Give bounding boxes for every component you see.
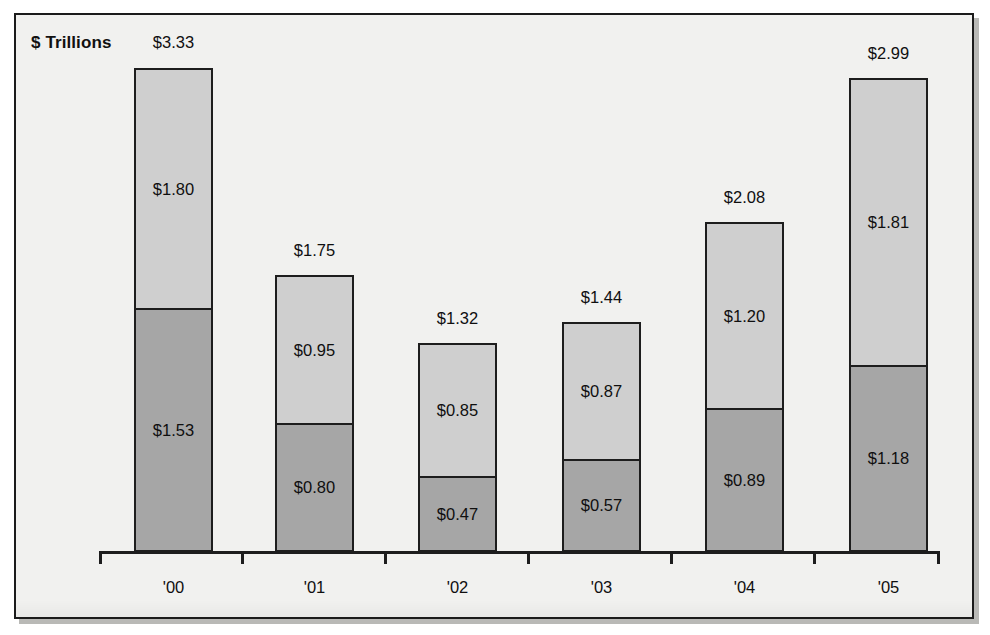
bar-stack[interactable]: $0.95$0.80 <box>275 275 354 552</box>
bar-stack[interactable]: $1.81$1.18 <box>849 78 928 552</box>
x-axis-category-label: '05 <box>849 578 928 597</box>
bar-segment-upper[interactable]: $0.85 <box>418 343 497 478</box>
bar-segment-upper-label: $1.80 <box>153 180 194 199</box>
bar-segment-lower[interactable]: $0.80 <box>275 423 354 552</box>
x-axis-category-label: '03 <box>562 578 641 597</box>
bar-total-label: $2.99 <box>849 44 928 63</box>
bar-segment-lower-label: $1.53 <box>153 421 194 440</box>
bar-total-label: $2.08 <box>705 188 784 207</box>
bar-segment-upper-label: $1.20 <box>724 307 765 326</box>
bar-total-label: $1.44 <box>562 288 641 307</box>
bar-stack[interactable]: $0.85$0.47 <box>418 343 497 552</box>
bar-segment-lower[interactable]: $0.57 <box>562 459 641 552</box>
x-axis-tick <box>937 551 940 564</box>
bar-segment-upper[interactable]: $0.95 <box>275 275 354 425</box>
bar-stack[interactable]: $1.80$1.53 <box>134 68 213 552</box>
x-axis-category-label: '02 <box>418 578 497 597</box>
bar-stack[interactable]: $1.20$0.89 <box>705 222 784 552</box>
plot-area: $ Trillions $1.80$1.53$3.33$0.95$0.80$1.… <box>0 0 990 635</box>
x-axis-tick <box>99 551 102 564</box>
stacked-bar-chart-figure: $ Trillions $1.80$1.53$3.33$0.95$0.80$1.… <box>0 0 990 635</box>
bar-segment-upper-label: $1.81 <box>868 213 909 232</box>
bar-segment-lower[interactable]: $1.18 <box>849 365 928 552</box>
bar-segment-upper[interactable]: $0.87 <box>562 322 641 461</box>
bar-segment-lower[interactable]: $1.53 <box>134 308 213 552</box>
x-axis-category-label: '01 <box>275 578 354 597</box>
x-axis-tick <box>813 551 816 564</box>
x-axis-category-label: '04 <box>705 578 784 597</box>
bar-segment-upper-label: $0.87 <box>581 382 622 401</box>
bar-segment-lower-label: $0.89 <box>724 471 765 490</box>
bar-total-label: $1.75 <box>275 241 354 260</box>
bar-segment-lower-label: $1.18 <box>868 449 909 468</box>
x-axis-tick <box>241 551 244 564</box>
bar-segment-lower-label: $0.47 <box>437 505 478 524</box>
x-axis-tick <box>527 551 530 564</box>
bar-stack[interactable]: $0.87$0.57 <box>562 322 641 552</box>
bar-segment-lower[interactable]: $0.47 <box>418 476 497 552</box>
bar-total-label: $1.32 <box>418 309 497 328</box>
bar-segment-upper[interactable]: $1.81 <box>849 78 928 367</box>
bar-segment-upper-label: $0.95 <box>294 341 335 360</box>
x-axis-tick <box>384 551 387 564</box>
bar-total-label: $3.33 <box>134 33 213 52</box>
bar-segment-upper[interactable]: $1.20 <box>705 222 784 410</box>
bar-segment-upper-label: $0.85 <box>437 401 478 420</box>
chart-title: $ Trillions <box>31 33 111 53</box>
bar-segment-lower-label: $0.80 <box>294 478 335 497</box>
x-axis-category-label: '00 <box>134 578 213 597</box>
bar-segment-lower[interactable]: $0.89 <box>705 408 784 552</box>
bar-segment-lower-label: $0.57 <box>581 496 622 515</box>
x-axis-tick <box>670 551 673 564</box>
bar-segment-upper[interactable]: $1.80 <box>134 68 213 310</box>
